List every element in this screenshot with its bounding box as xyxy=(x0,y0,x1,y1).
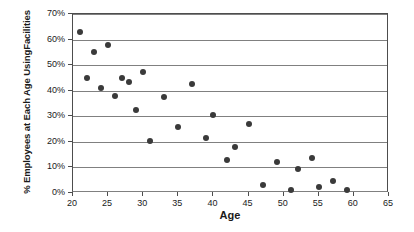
gridline xyxy=(73,167,387,168)
x-axis-title: Age xyxy=(72,209,388,221)
x-tick-label: 20 xyxy=(57,199,87,208)
data-point xyxy=(224,157,230,163)
data-point xyxy=(344,187,350,193)
data-point xyxy=(126,79,132,85)
y-tick-label: 50% xyxy=(30,60,65,69)
data-point xyxy=(105,42,111,48)
data-point xyxy=(161,94,167,100)
y-tick-label: 10% xyxy=(30,162,65,171)
data-point xyxy=(91,49,97,55)
y-tick-label: 40% xyxy=(30,86,65,95)
y-tick-label: 0% xyxy=(30,188,65,197)
y-tick-label: 30% xyxy=(30,111,65,120)
data-point xyxy=(147,138,153,144)
y-tick-mark xyxy=(68,64,72,65)
y-tick-mark xyxy=(68,141,72,142)
data-point xyxy=(77,29,83,35)
x-tick-label: 45 xyxy=(233,199,263,208)
x-tick-mark xyxy=(107,192,108,196)
x-tick-mark xyxy=(283,192,284,196)
gridline xyxy=(73,40,387,41)
gridline xyxy=(73,65,387,66)
x-tick-label: 55 xyxy=(303,199,333,208)
data-point xyxy=(309,155,315,161)
x-tick-mark xyxy=(353,192,354,196)
data-point xyxy=(274,159,280,165)
x-tick-mark xyxy=(177,192,178,196)
scatter-chart: % Employees at Each Age UsingFacilities … xyxy=(0,0,414,232)
data-point xyxy=(203,135,209,141)
gridline xyxy=(73,91,387,92)
data-point xyxy=(288,187,294,193)
x-tick-label: 30 xyxy=(127,199,157,208)
data-point xyxy=(133,107,139,113)
plot-area xyxy=(72,13,388,192)
data-point xyxy=(330,178,336,184)
data-point xyxy=(189,81,195,87)
x-tick-label: 25 xyxy=(92,199,122,208)
x-tick-mark xyxy=(248,192,249,196)
data-point xyxy=(260,182,266,188)
data-point xyxy=(232,144,238,150)
y-tick-mark xyxy=(68,90,72,91)
gridline xyxy=(73,14,387,15)
x-tick-label: 50 xyxy=(268,199,298,208)
y-tick-mark xyxy=(68,39,72,40)
x-tick-label: 60 xyxy=(338,199,368,208)
data-point xyxy=(316,184,322,190)
y-tick-label: 60% xyxy=(30,35,65,44)
x-tick-mark xyxy=(142,192,143,196)
x-tick-label: 40 xyxy=(197,199,227,208)
x-tick-label: 65 xyxy=(373,199,403,208)
y-tick-mark xyxy=(68,13,72,14)
gridline xyxy=(73,116,387,117)
y-axis-title-line: % Employees at Each Age Using xyxy=(21,50,33,194)
data-point xyxy=(246,121,252,127)
x-tick-mark xyxy=(212,192,213,196)
data-point xyxy=(140,69,146,75)
x-tick-mark xyxy=(72,192,73,196)
gridline xyxy=(73,142,387,143)
y-tick-mark xyxy=(68,115,72,116)
x-tick-label: 35 xyxy=(162,199,192,208)
y-tick-mark xyxy=(68,166,72,167)
x-tick-mark xyxy=(388,192,389,196)
y-tick-label: 70% xyxy=(30,9,65,18)
data-point xyxy=(84,75,90,81)
y-tick-label: 20% xyxy=(30,137,65,146)
data-point xyxy=(112,93,118,99)
data-point xyxy=(119,75,125,81)
data-point xyxy=(295,166,301,172)
x-tick-mark xyxy=(318,192,319,196)
y-axis-title: % Employees at Each Age UsingFacilities xyxy=(4,2,50,202)
data-point xyxy=(175,124,181,130)
